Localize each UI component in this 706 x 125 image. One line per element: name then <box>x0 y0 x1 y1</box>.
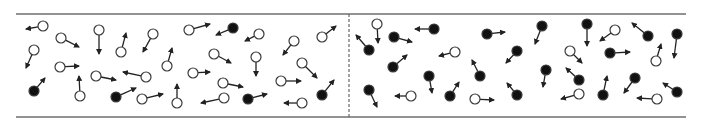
filled-circle-icon <box>429 24 439 34</box>
filled-circle-icon <box>598 90 608 100</box>
filled-circle-icon <box>537 21 547 31</box>
open-circle-icon <box>651 56 661 66</box>
open-circle-icon <box>372 19 382 29</box>
filled-circle-icon <box>389 32 399 42</box>
filled-circle-icon <box>228 23 238 33</box>
background <box>0 0 706 125</box>
open-circle-icon <box>251 52 261 62</box>
open-circle-icon <box>289 36 299 46</box>
open-circle-icon <box>574 89 584 99</box>
filled-circle-icon <box>445 91 455 101</box>
open-circle-icon <box>172 98 182 108</box>
velocity-arrow-icon <box>65 66 79 67</box>
filled-circle-icon <box>388 62 398 72</box>
open-circle-icon <box>56 33 66 43</box>
filled-circle-icon <box>541 65 551 75</box>
filled-circle-icon <box>630 73 640 83</box>
open-circle-icon <box>218 78 228 88</box>
filled-circle-icon <box>512 46 522 56</box>
open-circle-icon <box>254 29 264 39</box>
open-circle-icon <box>450 47 460 57</box>
filled-circle-icon <box>512 90 522 100</box>
open-circle-icon <box>162 61 172 71</box>
open-circle-icon <box>297 98 307 108</box>
filled-circle-icon <box>475 71 485 81</box>
open-circle-icon <box>29 45 39 55</box>
velocity-arrow-icon <box>615 52 630 53</box>
open-circle-icon <box>141 72 151 82</box>
open-circle-icon <box>565 46 575 56</box>
open-circle-icon <box>148 29 158 39</box>
open-circle-icon <box>652 94 662 104</box>
filled-circle-icon <box>364 85 374 95</box>
filled-circle-icon <box>424 71 434 81</box>
filled-circle-icon <box>672 29 682 39</box>
open-circle-icon <box>137 94 147 104</box>
open-circle-icon <box>406 91 416 101</box>
open-circle-icon <box>116 47 126 57</box>
open-circle-icon <box>75 91 85 101</box>
filled-circle-icon <box>111 92 121 102</box>
open-circle-icon <box>610 25 620 35</box>
open-circle-icon <box>317 32 327 42</box>
open-circle-icon <box>297 58 307 68</box>
filled-circle-icon <box>605 48 615 58</box>
filled-circle-icon <box>582 19 592 29</box>
filled-circle-icon <box>317 90 327 100</box>
velocity-arrow-icon <box>198 72 210 73</box>
filled-circle-icon <box>643 31 653 41</box>
open-circle-icon <box>91 71 101 81</box>
filled-circle-icon <box>574 75 584 85</box>
filled-circle-icon <box>29 86 39 96</box>
open-circle-icon <box>55 62 65 72</box>
open-circle-icon <box>184 25 194 35</box>
filled-circle-icon <box>364 45 374 55</box>
velocity-arrow-icon <box>637 98 652 99</box>
open-circle-icon <box>38 21 48 31</box>
velocity-arrow-icon <box>480 99 494 100</box>
velocity-arrow-icon <box>377 29 378 43</box>
open-circle-icon <box>94 25 104 35</box>
open-circle-icon <box>209 49 219 59</box>
open-circle-icon <box>219 93 229 103</box>
filled-circle-icon <box>243 94 253 104</box>
velocity-arrow-icon <box>79 76 80 91</box>
filled-circle-icon <box>672 87 682 97</box>
open-circle-icon <box>188 68 198 78</box>
open-circle-icon <box>470 94 480 104</box>
gas-diffusion-diagram <box>0 0 706 125</box>
filled-circle-icon <box>482 29 492 39</box>
open-circle-icon <box>276 76 286 86</box>
